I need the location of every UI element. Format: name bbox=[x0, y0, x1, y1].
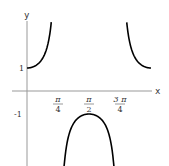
x-tick-0: π4 bbox=[53, 95, 63, 114]
x-tick-2: 3 π4 bbox=[114, 95, 128, 114]
y-tick-1: 1 bbox=[19, 64, 24, 73]
x-axis-label: x bbox=[155, 86, 161, 96]
x-tick-labels: π4π23 π4 bbox=[53, 95, 127, 114]
tick-numerator: 3 π bbox=[114, 95, 128, 104]
x-tick-1: π2 bbox=[84, 95, 94, 114]
y-axis-label: y bbox=[24, 10, 30, 20]
tick-denominator: 2 bbox=[86, 105, 91, 114]
axes: x y bbox=[12, 10, 161, 166]
branch-middle-curve bbox=[64, 114, 114, 166]
tick-numerator: π bbox=[54, 95, 61, 104]
tick-numerator: π bbox=[85, 95, 92, 104]
branch-left-curve bbox=[27, 22, 51, 68]
y-tick-minus-1: -1 bbox=[14, 110, 22, 119]
branch-right-curve bbox=[127, 22, 151, 68]
sec-2x-plot: x y 1 -1 π4π23 π4 bbox=[0, 0, 169, 166]
tick-denominator: 4 bbox=[117, 105, 122, 114]
tick-denominator: 4 bbox=[55, 105, 60, 114]
